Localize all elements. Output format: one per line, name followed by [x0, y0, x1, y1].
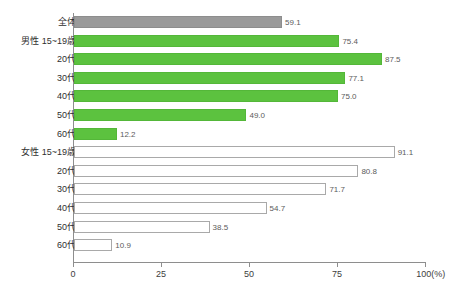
bar-value-label: 80.8: [361, 167, 377, 176]
bar-male: [74, 90, 338, 102]
bar-row: 40代54.7: [0, 199, 462, 217]
bar-value-label: 38.5: [213, 223, 229, 232]
x-tick-0: [73, 263, 74, 267]
x-tick-label-75: 75: [332, 269, 342, 279]
bar-female: [74, 221, 210, 233]
bar-row: 全体59.1: [0, 13, 462, 31]
bar-chart: 0255075100(%) 全体59.1男性 15~19歳75.420代87.5…: [0, 0, 462, 292]
bar-row: 60代12.2: [0, 125, 462, 143]
bar-female: [74, 202, 267, 214]
x-tick-label-100: 100(%): [416, 269, 445, 279]
bar-male: [74, 128, 117, 140]
bar-row-label: 男性 15~19歳: [21, 36, 76, 47]
bar-row-label: 女性 15~19歳: [21, 147, 76, 158]
bar-row: 50代49.0: [0, 106, 462, 124]
bar-value-label: 71.7: [329, 185, 345, 194]
x-tick-50: [249, 263, 250, 267]
bar-row: 50代38.5: [0, 218, 462, 236]
x-tick-label-25: 25: [156, 269, 166, 279]
bar-row: 男性 15~19歳75.4: [0, 32, 462, 50]
bar-value-label: 77.1: [348, 74, 364, 83]
bar-value-label: 12.2: [120, 130, 136, 139]
bar-row: 40代75.0: [0, 87, 462, 105]
x-tick-label-0: 0: [70, 269, 75, 279]
bar-female: [74, 165, 358, 177]
bar-row: 30代77.1: [0, 69, 462, 87]
bar-value-label: 91.1: [398, 148, 414, 157]
bar-male: [74, 35, 339, 47]
bar-row: 20代87.5: [0, 50, 462, 68]
x-tick-label-50: 50: [244, 269, 254, 279]
bar-male: [74, 53, 382, 65]
bar-row: 30代71.7: [0, 180, 462, 198]
bar-female: [74, 183, 326, 195]
bar-male: [74, 109, 246, 121]
bar-row: 60代10.9: [0, 236, 462, 254]
bar-value-label: 87.5: [385, 55, 401, 64]
bar-male: [74, 72, 345, 84]
bar-value-label: 75.0: [341, 92, 357, 101]
bar-female: [74, 146, 395, 158]
bar-value-label: 49.0: [249, 111, 265, 120]
x-tick-75: [337, 263, 338, 267]
x-tick-25: [161, 263, 162, 267]
bar-value-label: 10.9: [115, 241, 131, 250]
bar-value-label: 54.7: [270, 204, 286, 213]
bar-total: [74, 16, 282, 28]
bar-female: [74, 239, 112, 251]
cropped-heading-strip: [196, 0, 356, 5]
bar-value-label: 59.1: [285, 18, 301, 27]
bar-row: 20代80.8: [0, 162, 462, 180]
bar-value-label: 75.4: [342, 37, 358, 46]
x-tick-100: [425, 263, 426, 267]
bar-row: 女性 15~19歳91.1: [0, 143, 462, 161]
